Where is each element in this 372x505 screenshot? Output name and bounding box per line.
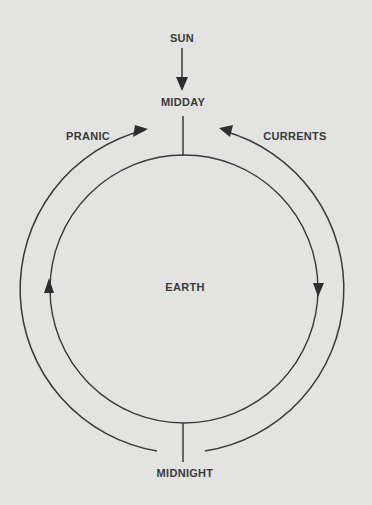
sun-label: SUN xyxy=(170,32,194,44)
arrowhead-right-top-icon xyxy=(219,125,233,137)
arrowhead-up-left-icon xyxy=(44,278,54,293)
arrowhead-down-icon xyxy=(176,77,188,91)
arrowhead-left-top-icon xyxy=(133,125,148,137)
pranic-currents-diagram: SUN MIDDAY PRANIC CURRENTS EARTH MIDNIGH… xyxy=(0,0,372,505)
earth-label: EARTH xyxy=(165,281,204,293)
arrowhead-down-right-icon xyxy=(313,283,324,297)
pranic-label: PRANIC xyxy=(66,130,110,142)
left-current-arc xyxy=(20,130,157,451)
currents-label: CURRENTS xyxy=(263,130,327,142)
midday-label: MIDDAY xyxy=(161,96,205,108)
sun-arrow xyxy=(176,48,188,91)
right-current-arc xyxy=(205,131,344,451)
midnight-label: MIDNIGHT xyxy=(157,467,214,479)
diagram-canvas xyxy=(0,0,372,505)
